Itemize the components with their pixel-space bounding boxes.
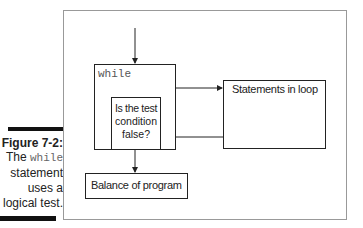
balance-label: Balance of program	[91, 179, 182, 191]
statements-box: Statements in loop	[223, 80, 326, 149]
condition-text-3: false?	[112, 128, 160, 141]
while-label: while	[98, 68, 131, 80]
statements-label: Statements in loop	[232, 83, 318, 95]
condition-text-2: condition	[112, 115, 160, 128]
balance-box: Balance of program	[85, 173, 188, 199]
condition-box: Is the test condition false?	[111, 97, 161, 150]
condition-text-1: Is the test	[112, 102, 160, 115]
